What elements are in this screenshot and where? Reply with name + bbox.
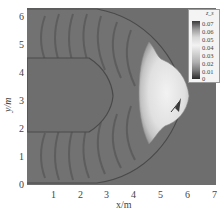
colorbar-level: 0.05 xyxy=(202,36,213,43)
colorbar-level: 0.06 xyxy=(202,28,213,35)
colorbar-level: 0.02 xyxy=(202,60,213,67)
x-tick-5: 5 xyxy=(158,190,163,200)
colorbar-level: 0.04 xyxy=(202,44,213,51)
colorbar-gradient xyxy=(192,21,200,79)
x-tick-3: 3 xyxy=(104,190,109,200)
y-tick-1: 1 xyxy=(19,152,24,162)
y-tick-3: 3 xyxy=(19,96,24,106)
x-tick-2: 2 xyxy=(78,190,83,200)
x-tick-7: 7 xyxy=(212,190,217,200)
colorbar-level: 0.07 xyxy=(202,20,213,27)
x-tick-6: 6 xyxy=(185,190,190,200)
colorbar-legend: z_s 0.07 0.06 0.05 0.04 0.03 0.02 0.01 0 xyxy=(188,9,220,83)
colorbar-level: 0.03 xyxy=(202,52,213,59)
x-tick-1: 1 xyxy=(51,190,56,200)
x-axis-label: x/m xyxy=(116,199,132,210)
colorbar-title: z_s xyxy=(206,10,214,16)
y-tick-4: 4 xyxy=(19,68,24,78)
y-tick-6: 6 xyxy=(19,12,24,22)
colorbar-level: 0.01 xyxy=(202,68,213,75)
y-tick-2: 2 xyxy=(19,124,24,134)
y-tick-5: 5 xyxy=(19,40,24,50)
y-axis-label: y/m xyxy=(2,98,13,112)
colorbar-level: 0 xyxy=(202,75,205,82)
y-tick-0: 0 xyxy=(19,180,24,190)
